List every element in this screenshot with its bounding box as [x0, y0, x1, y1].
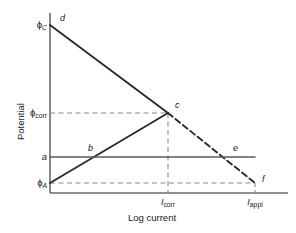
anodic-branch-solid-line: [50, 113, 168, 183]
y-tick-label-phi-corr: ϕcorr: [0, 108, 47, 118]
y-tick-label-a: a: [0, 152, 47, 162]
point-label-b: b: [88, 144, 93, 153]
cathodic-branch-solid-line: [50, 25, 168, 113]
point-label-f: f: [262, 175, 265, 184]
point-label-d: d: [60, 14, 65, 23]
y-tick-label-phi-a: ϕA: [0, 178, 47, 188]
polarization-diagram-figure: Potential Log current ϕC ϕcorr a ϕA Icor…: [0, 0, 296, 233]
x-tick-label-i-appl: Iappl: [237, 198, 273, 207]
x-axis-title: Log current: [128, 213, 176, 223]
point-label-e: e: [233, 144, 238, 153]
x-tick-label-i-corr: Icorr: [150, 198, 186, 207]
point-label-c: c: [175, 101, 180, 110]
cathodic-branch-dashed-line: [168, 113, 255, 183]
y-tick-label-phi-c: ϕC: [0, 20, 47, 30]
